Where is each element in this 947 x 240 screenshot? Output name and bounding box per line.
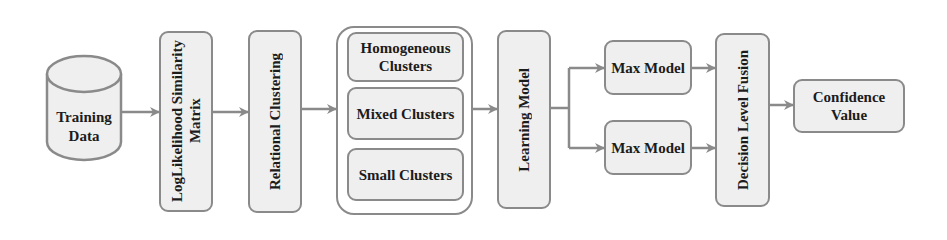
decision-fusion-label: Decision Level Fusion [735, 50, 751, 190]
decision-level-fusion-node: Decision Level Fusion [715, 33, 770, 207]
training-data-node: Training Data [45, 54, 123, 162]
mixed-clusters-node: Mixed Clusters [347, 87, 464, 140]
confidence-label-line2: Value [813, 106, 886, 124]
confidence-label-line1: Confidence [813, 88, 886, 106]
max-model-top-node: Max Model [604, 40, 692, 95]
relational-clustering-label: Relational Clustering [267, 53, 283, 190]
homogeneous-clusters-node: Homogeneous Clusters [347, 32, 464, 82]
loglikelihood-similarity-matrix-node: LogLikelihood Similarity Matrix [159, 31, 213, 212]
confidence-value-node: Confidence Value [793, 79, 905, 133]
small-clusters-label: Small Clusters [359, 166, 453, 184]
relational-clustering-node: Relational Clustering [248, 30, 302, 213]
learning-model-node: Learning Model [497, 30, 551, 209]
homogeneous-label-line2: Clusters [361, 57, 451, 75]
small-clusters-node: Small Clusters [347, 148, 464, 201]
training-data-label-line1: Training [45, 108, 123, 127]
mixed-clusters-label: Mixed Clusters [357, 105, 455, 123]
homogeneous-label-line1: Homogeneous [361, 39, 451, 57]
max-model-bottom-node: Max Model [604, 120, 692, 175]
max-model-top-label: Max Model [611, 59, 685, 77]
loglikelihood-label-line1: LogLikelihood Similarity [168, 40, 186, 202]
loglikelihood-label-line2: Matrix [186, 40, 204, 202]
max-model-bottom-label: Max Model [611, 139, 685, 157]
learning-model-label: Learning Model [516, 68, 532, 172]
training-data-label-line2: Data [45, 127, 123, 146]
